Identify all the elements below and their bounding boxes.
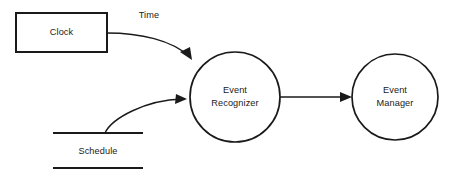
flow-time[interactable]: Time: [107, 10, 192, 60]
node-event-manager[interactable]: Event Manager: [352, 54, 438, 140]
time-flow-label: Time: [139, 10, 159, 20]
flow-recognizer-to-manager[interactable]: [280, 92, 352, 102]
event-manager-circle[interactable]: [352, 54, 438, 140]
event-recognizer-circle[interactable]: [190, 52, 280, 142]
node-event-recognizer[interactable]: Event Recognizer: [190, 52, 280, 142]
event-manager-label-line2: Manager: [377, 98, 414, 108]
time-flow-path[interactable]: [107, 33, 190, 57]
schedule-store-label: Schedule: [78, 146, 117, 156]
flow-schedule-to-recognizer[interactable]: [105, 94, 187, 133]
schedule-flow-path[interactable]: [105, 99, 182, 133]
node-schedule[interactable]: Schedule: [53, 133, 143, 168]
node-clock[interactable]: Clock: [16, 13, 107, 52]
event-recognizer-label-line1: Event: [223, 85, 247, 95]
event-manager-label-line1: Event: [383, 85, 407, 95]
dfd-canvas: Clock Time Schedule Event Recognizer: [0, 0, 465, 184]
recognizer-to-manager-arrowhead-icon: [340, 92, 352, 102]
clock-entity-label: Clock: [50, 27, 74, 37]
event-recognizer-label-line2: Recognizer: [211, 98, 258, 108]
dfd-svg-root: Clock Time Schedule Event Recognizer: [0, 0, 465, 184]
schedule-flow-arrowhead-icon: [175, 94, 187, 104]
time-flow-arrowhead-icon: [180, 47, 192, 60]
